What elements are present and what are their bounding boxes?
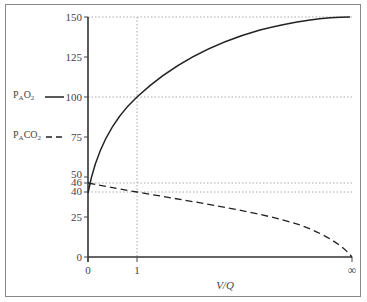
y-label-125: 125 [66,51,83,63]
legend: PAO2 PACO2 [13,89,65,142]
x-label-1: 1 [134,264,140,276]
legend-item-pao2: PAO2 [13,89,64,102]
axes [88,17,352,262]
x-label-infinity: ∞ [348,263,357,277]
y-label-0: 0 [77,251,83,263]
y-label-40: 40 [71,185,83,197]
chart-svg: 150 125 100 75 50 46 40 25 0 0 1 ∞ V/Q P… [0,0,367,302]
legend-label-pao2: PAO2 [13,89,35,102]
paco2-curve [88,183,352,257]
x-axis-title: V/Q [216,279,234,291]
legend-label-paco2: PACO2 [13,129,42,142]
y-label-100: 100 [66,91,83,103]
x-label-0: 0 [85,264,91,276]
y-label-75: 75 [71,131,83,143]
y-label-150: 150 [66,11,83,23]
x-tick-labels: 0 1 ∞ [85,263,356,277]
legend-item-paco2: PACO2 [13,129,65,142]
pao2-curve [88,17,350,193]
y-tick-labels: 150 125 100 75 50 46 40 25 0 [66,11,83,263]
y-label-25: 25 [71,211,83,223]
reference-gridlines [88,17,352,257]
